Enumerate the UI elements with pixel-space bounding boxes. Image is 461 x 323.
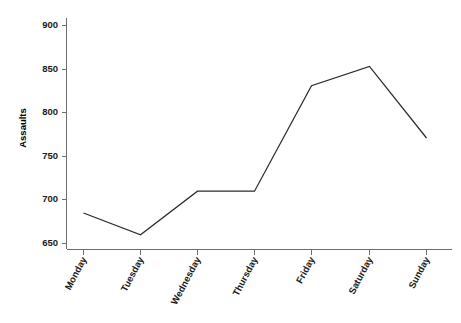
x-tick-labels: Monday Tuesday Wednesday Thursday Friday… <box>62 254 432 306</box>
y-tick-label-650: 650 <box>42 237 58 248</box>
line-chart: 900 850 800 750 700 650 Assaults Monday … <box>0 0 461 323</box>
chart-container: 900 850 800 750 700 650 Assaults Monday … <box>0 0 461 323</box>
x-tick-label-saturday: Saturday <box>346 254 375 296</box>
x-tick-label-thursday: Thursday <box>230 254 260 298</box>
x-tick-label-tuesday: Tuesday <box>118 254 146 293</box>
x-tick-label-monday: Monday <box>62 254 89 291</box>
y-axis-title: Assaults <box>17 108 28 148</box>
y-tick-labels: 900 850 800 750 700 650 <box>42 19 58 248</box>
x-tick-marks <box>84 250 427 256</box>
y-tick-label-750: 750 <box>42 150 58 161</box>
y-tick-label-850: 850 <box>42 63 58 74</box>
y-tick-label-700: 700 <box>42 193 58 204</box>
y-tick-label-900: 900 <box>42 19 58 30</box>
y-tick-marks <box>62 26 67 244</box>
y-tick-label-800: 800 <box>42 106 58 117</box>
x-tick-label-wednesday: Wednesday <box>168 254 203 306</box>
data-series-line <box>84 66 427 234</box>
x-tick-label-sunday: Sunday <box>406 254 432 290</box>
x-tick-label-friday: Friday <box>294 254 317 285</box>
